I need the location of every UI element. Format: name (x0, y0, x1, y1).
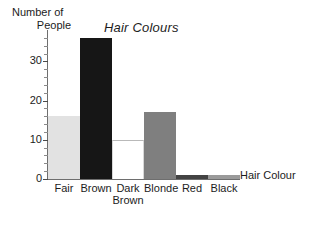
x-category-label-line1: Blonde (144, 182, 178, 194)
bar (80, 38, 112, 179)
y-tick-major (43, 179, 48, 180)
x-category-label: Fair (48, 182, 80, 194)
x-category-label: Black (208, 182, 240, 194)
x-category-label-line1: Fair (55, 182, 74, 194)
x-category-label: Brown (80, 182, 112, 194)
bars-layer (48, 30, 240, 179)
bar (176, 175, 208, 179)
x-category-label-line1: Black (211, 182, 238, 194)
bar (208, 175, 240, 179)
x-category-label-line1: Red (182, 182, 202, 194)
y-axis-label-line1: Number of (12, 6, 96, 19)
x-category-label: Red (176, 182, 208, 194)
x-category-label-line1: Brown (80, 182, 111, 194)
bar-chart: Hair Colours Number of People Hair Colou… (0, 0, 324, 228)
x-category-label: Blonde (144, 182, 176, 194)
x-axis-line (48, 179, 240, 180)
bar (48, 116, 80, 179)
x-axis-label: Hair Colour (240, 169, 296, 181)
bar (144, 112, 176, 179)
x-category-label-line2: Brown (112, 194, 144, 206)
y-axis-label: Number of People (12, 6, 96, 32)
bar (112, 140, 144, 179)
y-tick-label: 0 (16, 173, 42, 184)
x-category-label-line1: Dark (116, 182, 139, 194)
y-tick-label: 30 (16, 55, 42, 66)
y-tick-label: 10 (16, 134, 42, 145)
y-tick-label: 20 (16, 95, 42, 106)
x-category-label: DarkBrown (112, 182, 144, 206)
